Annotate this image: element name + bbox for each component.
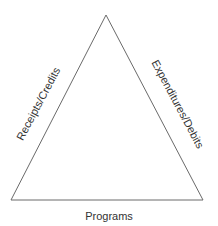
bottom-side-label: Programs: [0, 210, 218, 222]
triangle-diagram: Receipts/Credits Expenditures/Debits Pro…: [0, 0, 218, 226]
